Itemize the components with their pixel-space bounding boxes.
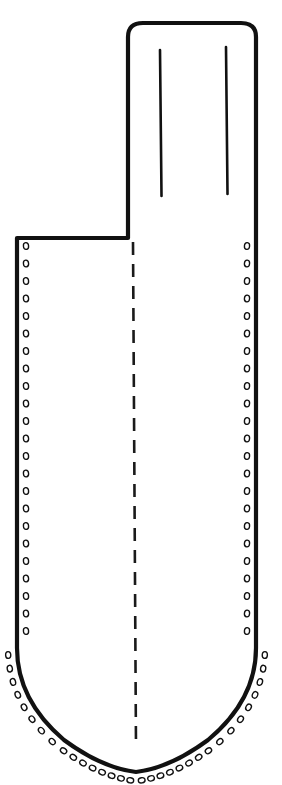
stitch-hole xyxy=(244,435,250,442)
stitch-hole xyxy=(7,665,13,673)
stitch-hole xyxy=(244,382,250,389)
stitch-hole xyxy=(23,347,29,354)
stitch-hole xyxy=(23,540,29,547)
stitch-hole xyxy=(244,277,250,284)
stitch-hole xyxy=(23,260,29,267)
stitch-hole xyxy=(138,777,146,783)
stitch-hole xyxy=(23,330,29,337)
stitch-hole xyxy=(244,575,250,582)
stitch-hole xyxy=(244,452,250,459)
stitch-hole xyxy=(23,242,29,249)
stitch-hole xyxy=(23,417,29,424)
stitch-hole xyxy=(23,487,29,494)
stitch-hole xyxy=(244,312,250,319)
stitch-hole xyxy=(127,777,135,783)
stitch-hole xyxy=(23,522,29,529)
stitch-hole xyxy=(244,365,250,372)
stitch-hole xyxy=(117,775,125,782)
stitch-hole xyxy=(244,400,250,407)
stitch-hole xyxy=(23,592,29,599)
stitch-hole xyxy=(244,470,250,477)
stitch-hole xyxy=(262,651,268,658)
stitch-hole xyxy=(23,452,29,459)
stitch-hole xyxy=(23,575,29,582)
stitch-hole xyxy=(244,330,250,337)
stitch-hole xyxy=(23,557,29,564)
stitch-hole xyxy=(5,651,11,658)
stitch-hole xyxy=(244,260,250,267)
sheath-pattern-figure xyxy=(0,0,282,785)
stitch-hole xyxy=(244,627,250,634)
stitch-hole xyxy=(23,295,29,302)
stitch-hole xyxy=(260,665,266,673)
stitch-hole xyxy=(23,277,29,284)
stitch-hole xyxy=(244,505,250,512)
stitch-hole xyxy=(244,540,250,547)
stitch-hole xyxy=(244,522,250,529)
stitch-hole xyxy=(244,557,250,564)
belt-slit-left xyxy=(160,50,162,196)
stitch-hole xyxy=(244,347,250,354)
stitch-hole xyxy=(244,242,250,249)
stitch-hole xyxy=(244,295,250,302)
stitch-hole xyxy=(147,775,155,782)
stitch-hole xyxy=(244,417,250,424)
stitch-hole xyxy=(23,470,29,477)
stitch-hole xyxy=(244,487,250,494)
stitch-hole xyxy=(23,627,29,634)
stitch-hole xyxy=(23,505,29,512)
stitch-hole xyxy=(244,610,250,617)
stitch-hole xyxy=(23,400,29,407)
stitch-hole xyxy=(23,435,29,442)
stitch-hole xyxy=(23,382,29,389)
stitch-hole xyxy=(23,312,29,319)
belt-slit-right xyxy=(226,47,228,194)
stitch-hole xyxy=(23,365,29,372)
stitch-hole xyxy=(244,592,250,599)
sheath-pattern-drawing xyxy=(0,0,282,785)
stitch-hole xyxy=(23,610,29,617)
